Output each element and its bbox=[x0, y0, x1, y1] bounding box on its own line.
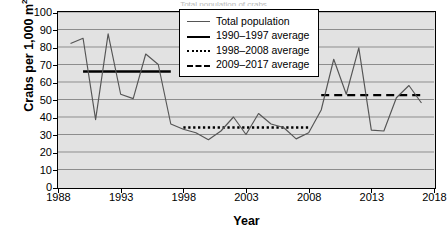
y-axis-title-superscript: 2 bbox=[20, 0, 29, 4]
x-axis-tick-mark bbox=[183, 188, 184, 193]
legend-label-2009-2017-average: 2009–2017 average bbox=[216, 59, 309, 70]
x-axis-tick-mark bbox=[246, 188, 247, 193]
y-axis-title: Crabs per 1,000 m2 bbox=[20, 0, 35, 136]
x-axis-title: Year bbox=[57, 214, 436, 228]
legend-key-total-population bbox=[185, 15, 211, 27]
y-axis-tick-mark bbox=[53, 30, 58, 31]
legend-label-1998-2008-average: 1998–2008 average bbox=[216, 45, 309, 56]
legend-label-total-population: Total population bbox=[216, 16, 290, 27]
y-axis-tick-label: 10 bbox=[18, 165, 52, 176]
x-axis-tick-label: 2003 bbox=[227, 192, 267, 203]
legend-item-1990-1997-average[interactable]: 1990–1997 average bbox=[185, 29, 313, 44]
y-axis-tick-mark bbox=[53, 65, 58, 66]
y-axis-tick-mark bbox=[53, 118, 58, 119]
legend-item-1998-2008-average[interactable]: 1998–2008 average bbox=[185, 43, 313, 58]
x-axis-tick-label: 1998 bbox=[164, 192, 204, 203]
legend-item-2009-2017-average[interactable]: 2009–2017 average bbox=[185, 58, 313, 73]
legend-key-2009-2017-average bbox=[185, 59, 211, 71]
y-axis-tick-mark bbox=[53, 153, 58, 154]
x-axis-tick-mark bbox=[121, 188, 122, 193]
chart-figure: Total population of crabs 10090807060504… bbox=[0, 0, 447, 234]
y-axis-tick-mark bbox=[53, 100, 58, 101]
x-axis-tick-mark bbox=[58, 188, 59, 193]
chart-legend: Total population 1990–1997 average 1998–… bbox=[179, 9, 319, 77]
y-axis-tick-mark bbox=[53, 83, 58, 84]
x-axis-tick-label: 2018 bbox=[415, 192, 447, 203]
x-axis-tick-mark bbox=[371, 188, 372, 193]
legend-item-total-population[interactable]: Total population bbox=[185, 14, 313, 29]
y-axis-tick-label: 20 bbox=[18, 147, 52, 158]
y-axis-title-text: Crabs per 1,000 m bbox=[22, 4, 36, 112]
chart-title: Total population of crabs bbox=[0, 0, 447, 6]
y-axis-tick-mark bbox=[53, 170, 58, 171]
legend-key-1990-1997-average bbox=[185, 30, 211, 42]
x-axis-tick-mark bbox=[434, 188, 435, 193]
x-axis-tick-label: 2008 bbox=[289, 192, 329, 203]
x-axis-tick-label: 1993 bbox=[101, 192, 141, 203]
x-axis-tick-mark bbox=[309, 188, 310, 193]
x-axis-tick-label: 2013 bbox=[352, 192, 392, 203]
legend-key-1998-2008-average bbox=[185, 44, 211, 56]
legend-label-1990-1997-average: 1990–1997 average bbox=[216, 30, 309, 41]
y-axis-tick-mark bbox=[53, 135, 58, 136]
y-axis-tick-mark bbox=[53, 13, 58, 14]
y-axis-tick-mark bbox=[53, 48, 58, 49]
x-axis-tick-label: 1988 bbox=[39, 192, 79, 203]
